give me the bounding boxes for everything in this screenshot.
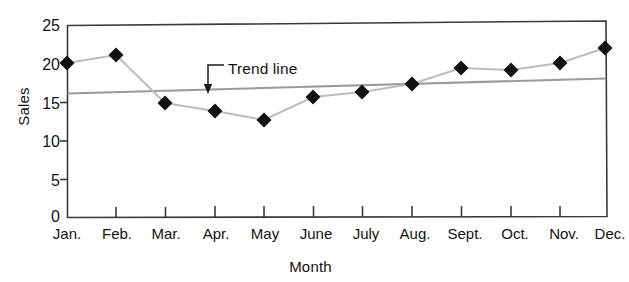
data-point-may [257,113,272,128]
data-point-sept [454,61,469,76]
sales-data-markers [60,41,613,128]
data-point-dec [598,41,613,56]
data-point-jan [60,56,75,71]
plot-frame [68,21,608,218]
data-point-aug [405,77,420,92]
data-point-july [355,85,370,100]
data-point-apr [208,104,223,119]
data-point-nov [553,56,568,71]
data-point-oct [504,63,519,78]
data-point-june [306,90,321,105]
x-axis-ticks [116,206,560,217]
sales-data-line [67,48,605,120]
y-axis-ticks [60,103,68,180]
